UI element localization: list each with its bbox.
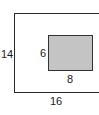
inner-height-label: 6 xyxy=(40,48,46,59)
inner-width-label: 8 xyxy=(67,74,73,85)
outer-height-label: 14 xyxy=(1,49,13,60)
outer-width-label: 16 xyxy=(50,96,62,107)
inner-shaded-rectangle xyxy=(48,35,93,71)
